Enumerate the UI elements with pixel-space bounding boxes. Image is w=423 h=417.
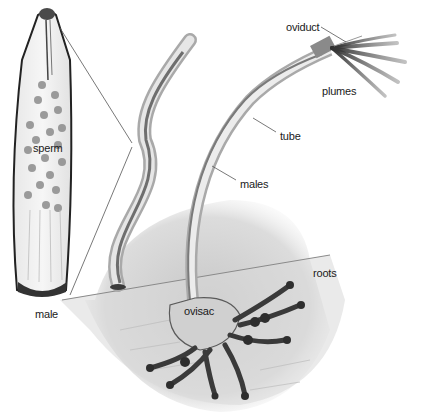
label-male: male [35,308,58,320]
label-oviduct: oviduct [286,21,319,33]
label-ovisac: ovisac [184,305,214,317]
label-sperm: sperm [33,142,63,154]
label-tube: tube [280,130,301,142]
label-roots: roots [313,267,336,279]
diagram-canvas: oviduct plumes tube males roots ovisac s… [0,0,423,417]
label-males: males [240,178,268,190]
label-plumes: plumes [322,85,356,97]
illustration [0,0,423,417]
